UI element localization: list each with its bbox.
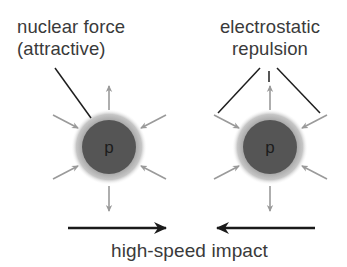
nuclear-force-line-2: (attractive) — [17, 38, 125, 60]
nuclear-force-leader-line — [55, 68, 91, 118]
force-arrow-upper-left — [214, 115, 239, 128]
electrostatic-leader-lines — [218, 68, 320, 113]
proton-symbol: p — [265, 138, 274, 157]
high-speed-impact-label: high-speed impact — [111, 240, 268, 262]
proton-symbol: p — [104, 138, 113, 157]
proton-collision-diagram: p p — [0, 0, 347, 267]
force-arrow-lower-right — [141, 166, 166, 179]
electrostatic-line-2: repulsion — [212, 38, 328, 60]
proton-right: p — [214, 86, 327, 211]
leader-line-left — [218, 68, 260, 113]
force-arrow-upper-left — [53, 115, 78, 128]
force-arrow-upper-right — [141, 115, 166, 128]
nuclear-force-line-1: nuclear force — [17, 16, 125, 38]
electrostatic-repulsion-label: electrostatic repulsion — [212, 16, 328, 60]
force-arrow-lower-left — [214, 166, 239, 179]
electrostatic-line-1: electrostatic — [212, 16, 328, 38]
proton-left: p — [53, 86, 166, 211]
force-arrow-lower-right — [302, 166, 327, 179]
force-arrow-lower-left — [53, 166, 78, 179]
nuclear-force-label: nuclear force (attractive) — [17, 16, 125, 60]
leader-line-right — [277, 68, 320, 113]
force-arrow-upper-right — [302, 115, 327, 128]
